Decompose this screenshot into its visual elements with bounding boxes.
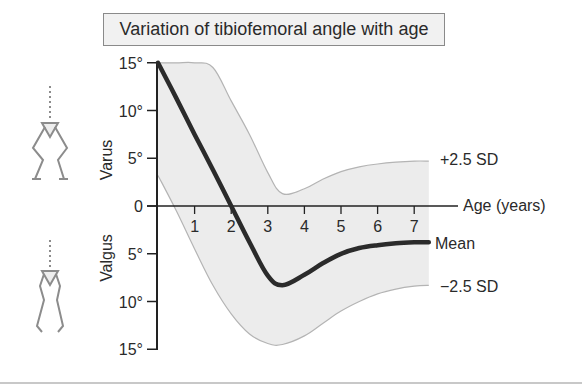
chart-area: 15°10°5°05°10°15° 1234567 Varus Valgus +… — [0, 0, 582, 384]
x-tick-label: 4 — [300, 218, 309, 235]
y-tick-label: 5° — [128, 150, 143, 167]
y-ticks: 15°10°5°05°10°15° — [119, 55, 157, 359]
sd-band — [158, 62, 429, 345]
valgus-label: Valgus — [98, 234, 115, 282]
x-tick-label: 2 — [227, 218, 236, 235]
y-tick-label: 15° — [119, 55, 143, 72]
lower-sd-label: −2.5 SD — [440, 278, 498, 295]
x-tick-label: 6 — [373, 218, 382, 235]
y-tick-label: 10° — [119, 294, 143, 311]
y-tick-label: 10° — [119, 103, 143, 120]
mean-label: Mean — [435, 235, 475, 252]
x-tick-label: 7 — [410, 218, 419, 235]
x-axis-label: Age (years) — [463, 197, 546, 214]
y-tick-label: 5° — [128, 246, 143, 263]
y-tick-label: 0 — [134, 198, 143, 215]
varus-label: Varus — [98, 140, 115, 181]
x-tick-label: 3 — [263, 218, 272, 235]
x-tick-label: 1 — [190, 218, 199, 235]
varus-legs-icon — [32, 86, 68, 179]
x-tick-label: 5 — [337, 218, 346, 235]
valgus-legs-icon — [37, 240, 63, 332]
upper-sd-label: +2.5 SD — [440, 151, 498, 168]
y-tick-label: 15° — [119, 341, 143, 358]
